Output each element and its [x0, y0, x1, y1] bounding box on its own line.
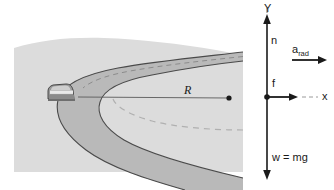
car-lower-body: [49, 95, 74, 100]
weight-force-label: w = mg: [272, 152, 308, 163]
friction-force-arrowhead: [289, 93, 298, 101]
center-of-curvature-dot: [226, 95, 231, 100]
radial-acceleration-arrowhead: [318, 56, 327, 64]
friction-force-label: f: [272, 78, 275, 89]
radius-label: R: [184, 84, 191, 96]
weight-force-arrowhead: [263, 170, 271, 180]
y-axis-label: Y: [264, 3, 271, 14]
car: [48, 84, 75, 101]
car-shadow: [48, 99, 75, 101]
normal-force-label: n: [271, 35, 277, 46]
radial-acceleration-subscript: rad: [298, 49, 309, 58]
x-axis-label: x: [322, 91, 328, 102]
radial-acceleration-label: arad: [292, 44, 309, 58]
normal-force-arrowhead: [263, 14, 271, 24]
car-window-band: [50, 91, 73, 94]
physics-figure: Y n f x w = mg arad R: [0, 0, 334, 190]
